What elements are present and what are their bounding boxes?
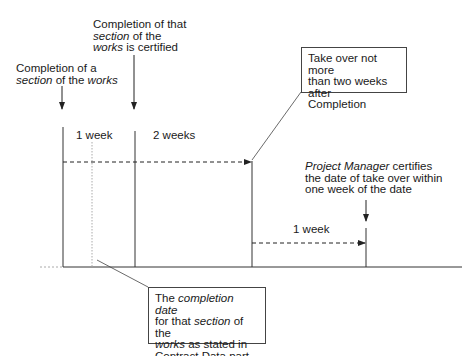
one-week-top-label: 1 week [76,130,112,142]
take-over-callout-box: Take over not more than two weeks after … [301,47,407,93]
completion-date-callout-box: The completion date for that section of … [148,287,266,344]
two-weeks-label: 2 weeks [153,130,195,142]
pm-certifies-label: Project Manager certifies the date of ta… [305,161,442,196]
completion-date-leader-line [97,260,148,287]
take-over-leader-line [252,92,301,160]
completion-of-section-label: Completion of a section of the works [16,63,118,86]
one-week-bottom-label: 1 week [293,224,329,236]
section-certified-label: Completion of that section of the works … [93,19,186,54]
